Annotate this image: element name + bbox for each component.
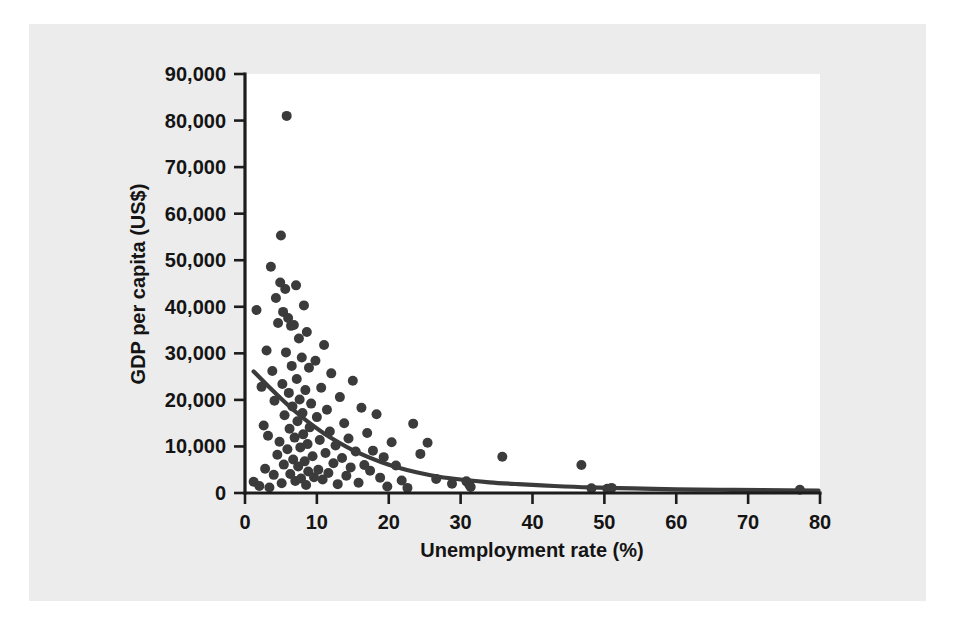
data-point [262, 346, 272, 356]
data-point [333, 479, 343, 489]
data-point [415, 449, 425, 459]
data-point [372, 409, 382, 419]
data-point [289, 320, 299, 330]
data-point [290, 433, 300, 443]
data-point [284, 388, 294, 398]
y-axis-title: GDP per capita (US$) [127, 184, 149, 385]
data-point [302, 327, 312, 337]
y-tick-label: 80,000 [165, 110, 226, 132]
y-tick-label: 20,000 [165, 389, 226, 411]
data-point [576, 460, 586, 470]
data-point [316, 383, 326, 393]
data-point [322, 405, 332, 415]
data-point [387, 437, 397, 447]
y-tick-label: 10,000 [165, 435, 226, 457]
data-point [326, 368, 336, 378]
data-point [321, 448, 331, 458]
data-point [313, 465, 323, 475]
data-point [299, 300, 309, 310]
data-point [259, 420, 269, 430]
data-point [346, 462, 356, 472]
data-point [285, 424, 295, 434]
data-point [297, 353, 307, 363]
data-point [272, 450, 282, 460]
data-point [408, 419, 418, 429]
x-tick-label: 30 [450, 511, 472, 533]
data-point [365, 466, 375, 476]
data-point [260, 464, 270, 474]
data-point [301, 480, 311, 490]
data-point [252, 305, 262, 315]
data-point [280, 284, 290, 294]
data-point [339, 418, 349, 428]
y-tick-label: 50,000 [165, 249, 226, 271]
data-point [280, 410, 290, 420]
data-point [402, 483, 412, 493]
data-point [254, 481, 264, 491]
data-point [348, 376, 358, 386]
y-tick-label: 0 [215, 482, 226, 504]
data-point [275, 437, 285, 447]
data-point [276, 231, 286, 241]
data-point [310, 356, 320, 366]
x-tick-label: 60 [665, 511, 687, 533]
data-point [335, 392, 345, 402]
x-tick-label: 0 [239, 511, 250, 533]
data-point [279, 460, 289, 470]
data-point [287, 361, 297, 371]
data-point [368, 446, 378, 456]
data-point [303, 439, 313, 449]
x-tick-label: 40 [521, 511, 543, 533]
data-point [319, 340, 329, 350]
data-point [277, 379, 287, 389]
data-point [344, 434, 354, 444]
data-point [282, 444, 292, 454]
x-tick-label: 20 [378, 511, 400, 533]
data-point [323, 468, 333, 478]
data-point [328, 458, 338, 468]
x-tick-label: 10 [306, 511, 328, 533]
data-point [466, 482, 476, 492]
y-tick-label: 40,000 [165, 296, 226, 318]
x-tick-label: 80 [809, 511, 831, 533]
x-axis-ticks: 01020304050607080 [239, 493, 831, 533]
data-point [294, 333, 304, 343]
data-point [300, 385, 310, 395]
data-point [354, 478, 364, 488]
data-point [375, 473, 385, 483]
data-point [308, 451, 318, 461]
y-axis-ticks: 010,00020,00030,00040,00050,00060,00070,… [165, 63, 245, 504]
data-point [266, 262, 276, 272]
data-point [315, 435, 325, 445]
data-point [267, 366, 277, 376]
y-tick-label: 70,000 [165, 156, 226, 178]
scatter-chart: 010,00020,00030,00040,00050,00060,00070,… [0, 0, 961, 635]
y-tick-label: 60,000 [165, 203, 226, 225]
data-point [277, 478, 287, 488]
data-point [281, 347, 291, 357]
data-point [382, 481, 392, 491]
data-point [295, 394, 305, 404]
x-tick-label: 50 [593, 511, 615, 533]
data-point [263, 431, 273, 441]
data-point [306, 399, 316, 409]
data-point [271, 293, 281, 303]
data-point [292, 374, 302, 384]
y-tick-label: 90,000 [165, 63, 226, 85]
data-point [291, 280, 301, 290]
data-point [264, 482, 274, 492]
data-point [362, 428, 372, 438]
data-point [356, 403, 366, 413]
data-point [497, 452, 507, 462]
x-tick-label: 70 [737, 511, 759, 533]
x-axis-title: Unemployment rate (%) [420, 539, 643, 561]
y-tick-label: 30,000 [165, 342, 226, 364]
data-point [423, 438, 433, 448]
data-point [337, 453, 347, 463]
data-point [282, 111, 292, 121]
figure-root: 010,00020,00030,00040,00050,00060,00070,… [0, 0, 961, 635]
data-point [269, 470, 279, 480]
data-point [273, 318, 283, 328]
data-point [312, 412, 322, 422]
